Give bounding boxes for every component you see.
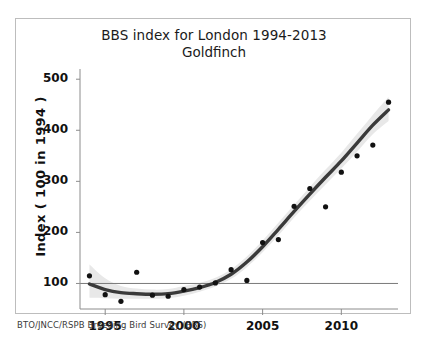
plot-area — [80, 69, 398, 309]
y-tick-label: 300 — [28, 173, 68, 187]
chart-figure: BBS index for London 1994-2013 Goldfinch… — [0, 0, 425, 346]
data-point — [292, 204, 297, 209]
data-point — [354, 153, 359, 158]
trend-line — [89, 110, 388, 294]
data-point — [276, 237, 281, 242]
data-point — [323, 204, 328, 209]
y-tick-label: 400 — [28, 122, 68, 136]
data-point — [134, 270, 139, 275]
data-point — [229, 267, 234, 272]
data-point — [150, 293, 155, 298]
data-point — [244, 278, 249, 283]
plot-svg — [80, 69, 398, 309]
data-point — [370, 142, 375, 147]
data-point — [181, 287, 186, 292]
data-point — [87, 273, 92, 278]
y-tick-label: 100 — [28, 275, 68, 289]
data-point — [197, 284, 202, 289]
page-title: BBS index for London 1994-2013 — [16, 27, 412, 43]
data-point — [260, 240, 265, 245]
data-point — [307, 186, 312, 191]
chart-subtitle: Goldfinch — [16, 44, 412, 60]
data-point — [213, 280, 218, 285]
figure-frame: BBS index for London 1994-2013 Goldfinch… — [15, 18, 411, 314]
y-tick-label: 500 — [28, 71, 68, 85]
data-point — [339, 170, 344, 175]
data-point — [103, 292, 108, 297]
data-point — [118, 299, 123, 304]
source-caption: BTO/JNCC/RSPB Breeding Bird Survey (BBS) — [17, 320, 397, 330]
y-tick-label: 200 — [28, 224, 68, 238]
data-point — [166, 294, 171, 299]
data-point — [386, 100, 391, 105]
